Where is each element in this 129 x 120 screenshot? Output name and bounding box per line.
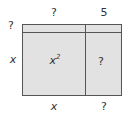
top-label-right: 5: [98, 7, 110, 19]
cell-x-squared: x2: [43, 53, 67, 67]
side-label-bottom: x: [8, 54, 18, 66]
top-label-left: ?: [48, 7, 60, 19]
strip-divider: [23, 32, 121, 33]
exponent: 2: [56, 53, 60, 61]
bottom-label-left: x: [48, 101, 60, 113]
cell-unknown: ?: [95, 55, 107, 68]
side-label-top: ?: [6, 20, 16, 32]
column-divider: [85, 25, 86, 95]
area-model: x2 ?: [22, 24, 122, 96]
bottom-label-right: ?: [98, 101, 110, 113]
